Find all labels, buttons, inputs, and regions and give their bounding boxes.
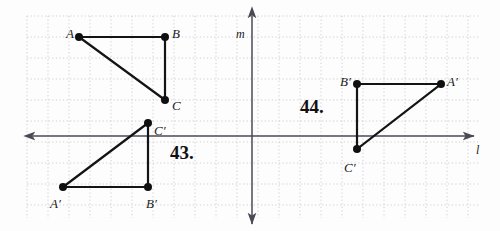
vertex-label: A′ bbox=[447, 75, 458, 88]
vertex-label: A′ bbox=[50, 197, 61, 210]
problem-number-44: 44. bbox=[300, 97, 324, 116]
triangle-A-prime-B-prime-C-prime bbox=[63, 123, 148, 187]
vertex-point bbox=[353, 80, 361, 88]
vertex-label: C′ bbox=[154, 124, 166, 137]
problem-number-43: 43. bbox=[170, 143, 194, 162]
triangle-ABC bbox=[79, 37, 165, 100]
axis-label-l: l bbox=[476, 144, 479, 156]
vertex-point bbox=[75, 33, 83, 41]
vertex-point bbox=[144, 119, 152, 127]
vertex-point bbox=[144, 183, 152, 191]
vertex-label: C′ bbox=[344, 161, 356, 174]
vertex-point bbox=[161, 33, 169, 41]
vertex-point bbox=[437, 80, 445, 88]
vertex-label: A bbox=[66, 27, 74, 40]
vertex-label: B bbox=[172, 27, 180, 40]
vertex-point bbox=[59, 183, 67, 191]
vertex-point bbox=[353, 145, 361, 153]
geometry-layer bbox=[0, 0, 500, 231]
geometry-figure: l m 43. 44. ABCC′A′B′B′A′C′ bbox=[0, 0, 500, 231]
vertex-label: B′ bbox=[340, 75, 351, 88]
axis-label-m: m bbox=[236, 28, 245, 40]
triangle-A-prime-B-prime-C-prime bbox=[357, 84, 441, 149]
axes-group bbox=[33, 16, 474, 224]
vertex-label: C bbox=[172, 99, 181, 112]
vertex-label: B′ bbox=[146, 197, 157, 210]
vertex-point bbox=[161, 96, 169, 104]
